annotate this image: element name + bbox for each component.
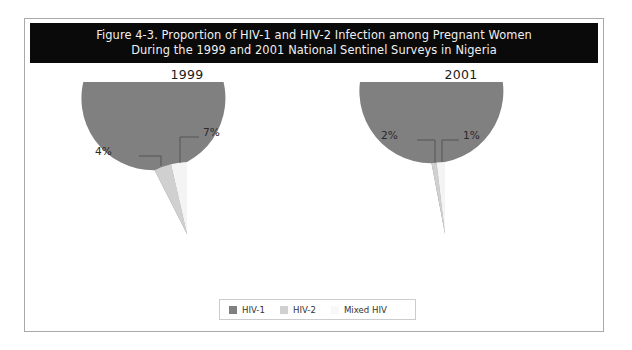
chart-year-label-2001: 2001 [325, 67, 597, 82]
pie-slice-hiv-1-1999[interactable] [81, 82, 225, 234]
chart-year-label-1999: 1999 [47, 67, 327, 82]
pie-callout-4pct-1999: 4% [95, 145, 112, 157]
figure-frame: Figure 4-3. Proportion of HIV-1 and HIV-… [24, 18, 604, 332]
pie-center-label-1999: 89% [167, 234, 192, 248]
pie-callout-7pct-1999: 7% [203, 126, 220, 138]
pie-center-label-2001: 98% [426, 234, 451, 248]
pie-area-1999: 4% 7% 89% [47, 82, 327, 297]
pie-callout-2pct-2001: 2% [381, 129, 398, 141]
pie-area-2001: 2% 1% 98% [325, 82, 597, 297]
legend-label-hiv-2: HIV-2 [293, 305, 316, 315]
legend-item-hiv-2[interactable]: HIV-2 [280, 305, 316, 315]
legend-swatch-hiv-2-icon [280, 306, 288, 314]
legend-label-mixed-hiv: Mixed HIV [344, 305, 387, 315]
legend-swatch-mixed-hiv-icon [331, 306, 339, 314]
pie-slices-1999 [81, 82, 225, 234]
pie-chart-2001: 2001 2% 1% 98% [325, 67, 597, 297]
figure-title-line-2: During the 1999 and 2001 National Sentin… [131, 43, 497, 58]
figure-title-banner: Figure 4-3. Proportion of HIV-1 and HIV-… [30, 23, 598, 63]
legend-item-hiv-1[interactable]: HIV-1 [229, 305, 265, 315]
pie-slices-2001 [359, 82, 503, 234]
pie-svg-1999 [47, 82, 327, 297]
figure-title-line-1: Figure 4-3. Proportion of HIV-1 and HIV-… [96, 28, 532, 43]
pie-callout-1pct-2001: 1% [463, 129, 480, 141]
pie-chart-1999: 1999 4% 7% 89% [47, 67, 327, 297]
legend-item-mixed-hiv[interactable]: Mixed HIV [331, 305, 387, 315]
legend-swatch-hiv-1-icon [229, 306, 237, 314]
pie-slice-mixed-hiv-2001[interactable] [437, 162, 446, 234]
chart-legend: HIV-1 HIV-2 Mixed HIV [219, 299, 416, 320]
pie-slice-hiv-1-2001[interactable] [359, 82, 503, 234]
pie-svg-2001 [325, 82, 597, 297]
legend-label-hiv-1: HIV-1 [242, 305, 265, 315]
